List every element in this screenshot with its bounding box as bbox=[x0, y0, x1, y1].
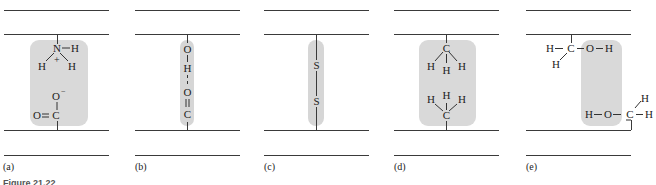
atom-hydrogen: H bbox=[644, 109, 654, 120]
atom-hydrogen: H bbox=[640, 93, 650, 104]
figure-caption: Figure 21.22 bbox=[3, 178, 56, 185]
atom-oxygen: O bbox=[585, 43, 595, 54]
bond-lines-e bbox=[0, 0, 656, 185]
atom-hydrogen: H bbox=[545, 43, 555, 54]
atom-hydrogen: H bbox=[551, 59, 561, 70]
atom-carbon: C bbox=[566, 43, 576, 54]
atom-hydrogen: H bbox=[584, 109, 594, 120]
atom-oxygen: O bbox=[603, 109, 613, 120]
atom-carbon: C bbox=[625, 109, 635, 120]
panel-label-e: (e) bbox=[526, 162, 537, 172]
atom-hydrogen: H bbox=[604, 43, 614, 54]
